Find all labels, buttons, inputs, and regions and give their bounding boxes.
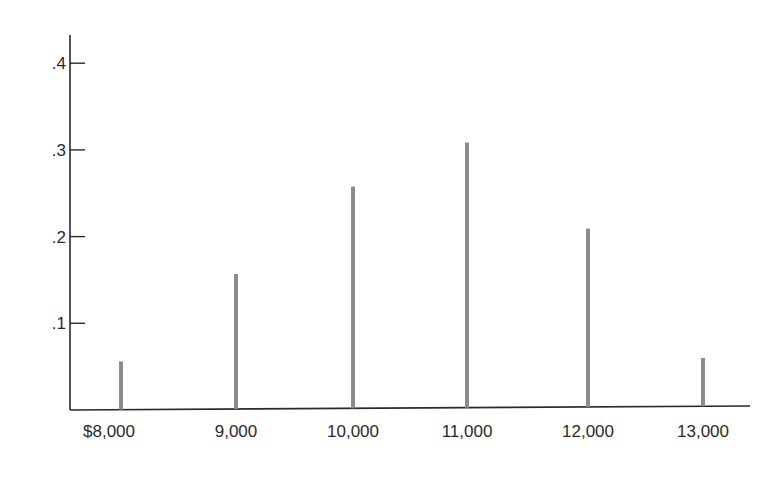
x-tick-label: $8,000 (83, 422, 135, 441)
y-tick-label: .1 (52, 314, 66, 333)
y-tick-label: .2 (52, 228, 66, 247)
y-tick-label: .4 (52, 54, 66, 73)
y-axis-ticks: .1.2.3.4 (52, 54, 85, 333)
x-tick-label: 9,000 (215, 422, 258, 441)
x-axis-labels: $8,0009,00010,00011,00012,00013,000 (83, 422, 729, 441)
spike-chart: .1.2.3.4 $8,0009,00010,00011,00012,00013… (0, 0, 779, 479)
x-tick-label: 12,000 (562, 422, 614, 441)
x-tick-label: 13,000 (677, 422, 729, 441)
x-axis (70, 406, 750, 410)
x-tick-label: 10,000 (327, 422, 379, 441)
bars (121, 143, 703, 410)
x-tick-label: 11,000 (442, 422, 493, 441)
y-tick-label: .3 (52, 141, 66, 160)
